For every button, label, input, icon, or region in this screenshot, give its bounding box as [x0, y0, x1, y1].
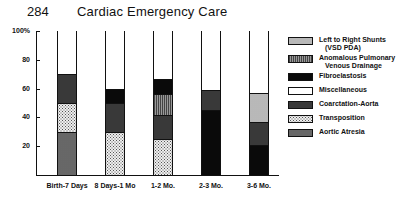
- legend-label: Fibroelastosis: [319, 72, 366, 80]
- bar-segment-misc: [58, 31, 76, 74]
- bar-segment-apv: [154, 94, 172, 114]
- page-number: 284: [27, 4, 49, 19]
- bar-segment-trans: [154, 139, 172, 175]
- y-tick-label: 100%: [4, 27, 30, 34]
- x-axis: [36, 175, 279, 176]
- bar-segment-trans: [58, 103, 76, 132]
- bar-segment-misc: [106, 31, 124, 89]
- x-tick-label: Birth-7 Days: [46, 182, 87, 189]
- bar-segment-misc: [202, 31, 220, 90]
- y-tick-label: 40: [4, 113, 30, 120]
- legend-label: Transposition: [319, 114, 365, 122]
- bar-segment-fib: [202, 110, 220, 175]
- bar-segment-fib: [154, 79, 172, 95]
- legend-label: Anomalous PulmonaryVenous Drainage: [319, 54, 395, 70]
- bar: [249, 31, 269, 175]
- legend-item-apv: Anomalous PulmonaryVenous Drainage: [288, 54, 395, 70]
- bar-segment-lr: [250, 93, 268, 122]
- legend-swatch: [288, 115, 313, 123]
- bar: [105, 31, 125, 175]
- bar-segment-misc: [154, 31, 172, 79]
- legend-swatch: [288, 87, 313, 95]
- legend-swatch: [288, 55, 313, 63]
- legend-swatch: [288, 129, 313, 137]
- bar-segment-fib: [250, 145, 268, 175]
- bar-segment-coarc: [202, 90, 220, 110]
- legend-item-trans: Transposition: [288, 114, 395, 123]
- x-tick-label: 1-2 Mo.: [151, 182, 175, 189]
- legend-label: Miscellaneous: [319, 86, 367, 94]
- legend-item-fib: Fibroelastosis: [288, 72, 395, 81]
- x-tick-label: 8 Days-1 Mo: [95, 182, 136, 189]
- bar-segment-coarc: [250, 122, 268, 145]
- bar-segment-coarc: [106, 103, 124, 132]
- page-title: Cardiac Emergency Care: [77, 4, 227, 19]
- bar-segment-coarc: [58, 74, 76, 103]
- bar-segment-misc: [250, 31, 268, 93]
- legend-item-coarc: Coarctation-Aorta: [288, 100, 395, 109]
- bar-segment-coarc: [154, 115, 172, 139]
- y-tick: [36, 31, 40, 32]
- bar: [201, 31, 221, 175]
- y-tick-label: 60: [4, 85, 30, 92]
- bar: [153, 31, 173, 175]
- y-tick: [36, 146, 40, 147]
- y-axis: [36, 31, 37, 175]
- y-tick: [36, 89, 40, 90]
- legend-swatch: [288, 73, 313, 81]
- legend-item-misc: Miscellaneous: [288, 86, 395, 95]
- x-tick-label: 2-3 Mo.: [199, 182, 223, 189]
- bar-segment-aort: [58, 132, 76, 175]
- y-tick-label: 80: [4, 56, 30, 63]
- y-tick-label: 20: [4, 142, 30, 149]
- legend-label: Left to Right Shunts(VSD PDA): [319, 36, 386, 52]
- bar: [57, 31, 77, 175]
- bar-segment-trans: [106, 132, 124, 175]
- legend-label: Aortic Atresia: [319, 128, 365, 136]
- x-tick-label: 3-6 Mo.: [247, 182, 271, 189]
- y-tick: [36, 60, 40, 61]
- legend-item-aort: Aortic Atresia: [288, 128, 395, 137]
- legend-item-lr: Left to Right Shunts(VSD PDA): [288, 36, 395, 52]
- legend: Left to Right Shunts(VSD PDA)Anomalous P…: [288, 36, 395, 142]
- bar-segment-fib: [106, 89, 124, 103]
- y-tick: [36, 117, 40, 118]
- legend-label: Coarctation-Aorta: [319, 100, 379, 108]
- legend-swatch: [288, 101, 313, 109]
- legend-swatch: [288, 37, 313, 45]
